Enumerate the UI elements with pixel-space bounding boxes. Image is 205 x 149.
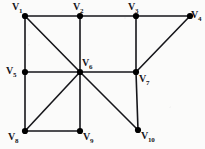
vertex-v1-label: V1 — [12, 2, 22, 15]
vertex-v8 — [22, 128, 28, 134]
edge-v4-v7 — [136, 16, 190, 72]
vertex-v7-subscript: 7 — [146, 79, 149, 87]
vertex-v10-label: V10 — [141, 131, 154, 144]
vertex-v5-subscript: 5 — [13, 71, 16, 79]
vertex-v6-subscript: 6 — [89, 63, 92, 71]
graph-diagram: V1V2V3V4V5V6V7V8V9V10 — [0, 0, 205, 149]
vertex-v6-label: V6 — [82, 58, 92, 71]
vertex-v9-subscript: 9 — [90, 137, 93, 145]
vertex-v3-label: V3 — [128, 2, 138, 15]
vertex-v1-subscript: 1 — [19, 7, 22, 15]
vertex-v7-label: V7 — [139, 74, 149, 87]
edge-v1-v6 — [25, 16, 80, 72]
vertex-v9-label: V9 — [83, 132, 93, 145]
vertex-v2-subscript: 2 — [80, 7, 83, 15]
vertex-v2-label: V2 — [73, 2, 83, 15]
vertex-v8-label: V8 — [8, 132, 18, 145]
edge-v7-v10 — [136, 72, 138, 130]
vertex-v4-label: V4 — [191, 10, 201, 23]
vertex-v5 — [22, 69, 28, 75]
vertex-v3-subscript: 3 — [135, 7, 138, 15]
vertex-layer — [22, 13, 193, 134]
vertex-v8-subscript: 8 — [15, 137, 18, 145]
vertex-v10-subscript: 10 — [148, 136, 154, 144]
vertex-v4-subscript: 4 — [198, 15, 201, 23]
edge-v6-v10 — [80, 72, 138, 130]
vertex-v1 — [22, 13, 28, 19]
vertex-v5-label: V5 — [6, 66, 16, 79]
edge-layer — [25, 16, 190, 131]
graph-canvas — [0, 0, 205, 149]
edge-v6-v8 — [25, 72, 80, 131]
